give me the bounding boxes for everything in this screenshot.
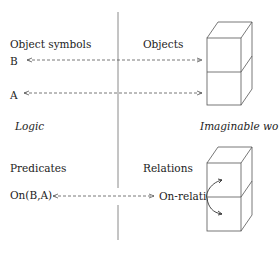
arrow-a-to-object <box>24 91 202 95</box>
stacked-blocks-objects <box>207 22 252 105</box>
stacked-blocks-relation <box>207 147 252 231</box>
diagram-graphics <box>0 0 279 253</box>
arrow-predicate-to-relation <box>53 194 154 198</box>
arrow-b-to-object <box>27 58 202 62</box>
